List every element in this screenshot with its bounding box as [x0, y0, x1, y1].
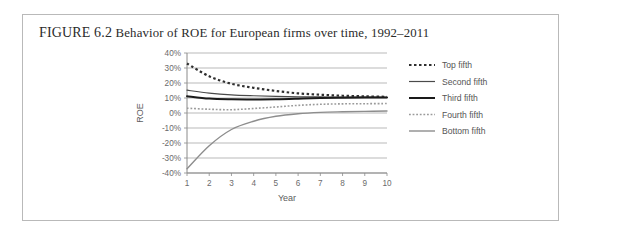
series-line — [187, 111, 387, 169]
legend-label: Second fifth — [442, 77, 488, 87]
y-tick-label: 0% — [169, 109, 181, 118]
y-tick-label: 40% — [165, 49, 181, 58]
figure-caption: FIGURE 6.2 Behavior of ROE for European … — [39, 25, 429, 41]
y-tick-label: 30% — [165, 64, 181, 73]
figure-caption-text: Behavior of ROE for European firms over … — [116, 26, 430, 40]
y-axis-ticks: 40%30%20%10%0%-10%-20%-30%-40% — [162, 49, 187, 178]
x-tick-label: 1 — [185, 179, 190, 188]
chart-legend: Top fifthSecond fifthThird fifthFourth f… — [409, 60, 488, 136]
x-tick-label: 5 — [274, 179, 279, 188]
legend-label: Third fifth — [442, 93, 478, 103]
y-tick-label: 20% — [165, 79, 181, 88]
x-tick-label: 4 — [251, 179, 256, 188]
x-tick-label: 9 — [362, 179, 367, 188]
y-tick-label: -40% — [162, 169, 181, 178]
x-tick-label: 6 — [296, 179, 301, 188]
grid-lines — [187, 53, 387, 173]
y-tick-label: -10% — [162, 124, 181, 133]
series-lines — [187, 64, 387, 169]
y-tick-label: -30% — [162, 154, 181, 163]
x-axis-title: Year — [278, 193, 296, 203]
x-tick-label: 8 — [340, 179, 345, 188]
roe-line-chart: 12345678910 40%30%20%10%0%-10%-20%-30%-4… — [23, 49, 560, 219]
x-tick-label: 3 — [229, 179, 234, 188]
legend-label: Top fifth — [442, 60, 472, 70]
y-tick-label: -20% — [162, 139, 181, 148]
series-line — [187, 104, 387, 110]
x-axis-ticks: 12345678910 — [185, 173, 392, 188]
x-tick-label: 10 — [382, 179, 392, 188]
y-tick-label: 10% — [165, 94, 181, 103]
legend-label: Bottom fifth — [442, 126, 486, 136]
figure-label: FIGURE 6.2 — [39, 25, 112, 40]
chart-plot-area: 12345678910 40%30%20%10%0%-10%-20%-30%-4… — [23, 49, 560, 219]
legend-label: Fourth fifth — [442, 110, 483, 120]
figure-container: FIGURE 6.2 Behavior of ROE for European … — [22, 14, 559, 221]
x-tick-label: 7 — [318, 179, 323, 188]
y-axis-title: ROE — [135, 103, 145, 123]
series-line — [187, 64, 387, 97]
x-tick-label: 2 — [207, 179, 212, 188]
